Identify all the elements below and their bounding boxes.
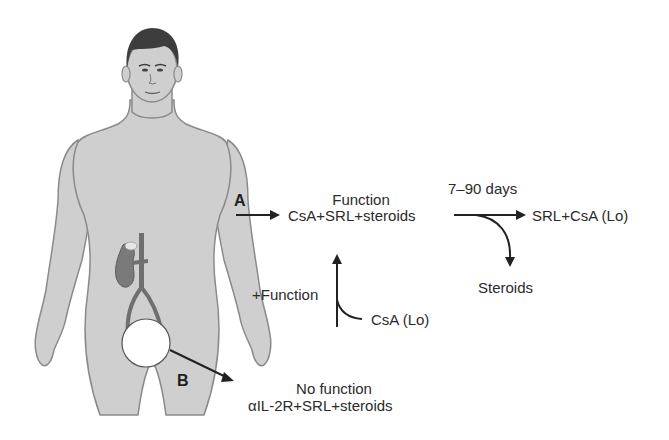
label-a-status: Function xyxy=(282,191,440,208)
label-a-regimen: CsA+SRL+steroids xyxy=(288,207,416,224)
arrow-head-up xyxy=(332,254,342,264)
label-maintenance: SRL+CsA (Lo) xyxy=(532,207,628,224)
label-path-b: B xyxy=(177,372,189,389)
arrow-head-b xyxy=(221,372,234,382)
label-b-status: No function xyxy=(244,380,424,397)
label-csa-lo: CsA (Lo) xyxy=(371,311,429,328)
arrow-csa-join xyxy=(337,300,362,319)
label-b-regimen: αIL-2R+SRL+steroids xyxy=(248,397,393,414)
arrow-head-steroids xyxy=(505,257,515,267)
label-path-a: A xyxy=(234,192,246,209)
arrow-head-maintenance xyxy=(516,210,526,220)
label-steroids-withdrawn: Steroids xyxy=(478,279,533,296)
label-plus-function: +Function xyxy=(252,286,318,303)
label-timeframe: 7–90 days xyxy=(448,180,517,197)
bladder-circle xyxy=(122,319,170,367)
arrow-steroids-withdrawal xyxy=(476,215,510,258)
arrow-head-a xyxy=(270,210,280,220)
head xyxy=(122,28,182,102)
